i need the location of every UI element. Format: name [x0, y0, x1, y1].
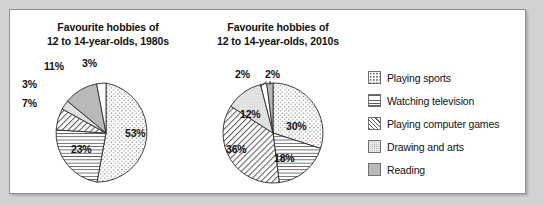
- legend-item-drawing-and-arts: Drawing and arts: [368, 135, 528, 158]
- pie-chart-2010s: Favourite hobbies of 12 to 14-year-olds,…: [188, 10, 368, 195]
- chart-1-label-drawing: 3%: [22, 78, 37, 90]
- chart-2-label-sports: 30%: [286, 120, 306, 132]
- chart-2-label-other: 2%: [235, 68, 250, 80]
- figure-panel: Favourite hobbies of 12 to 14-year-olds,…: [9, 9, 526, 194]
- chart-1-title: Favourite hobbies of 12 to 14-year-olds,…: [18, 21, 198, 48]
- legend-item-playing-sports: Playing sports: [368, 66, 528, 89]
- chart-2-pie-area: 30% 18% 36% 12% 2% 2%: [216, 80, 336, 186]
- page-root: Favourite hobbies of 12 to 14-year-olds,…: [0, 0, 543, 205]
- chart-2-title-line-1: Favourite hobbies of: [188, 21, 368, 35]
- legend-swatch-solid-gray-icon: [368, 163, 381, 176]
- chart-2-title-line-2: 12 to 14-year-olds, 2010s: [188, 35, 368, 49]
- legend-label-watching-television: Watching television: [387, 95, 474, 107]
- chart-2-label-computer-games: 36%: [226, 143, 246, 155]
- chart-1-title-line-2: 12 to 14-year-olds, 1980s: [18, 35, 198, 49]
- chart-2-title: Favourite hobbies of 12 to 14-year-olds,…: [188, 21, 368, 48]
- legend-item-watching-television: Watching television: [368, 89, 528, 112]
- chart-1-label-computer-games: 7%: [22, 97, 37, 109]
- legend-swatch-diagonal-hatch-icon: [368, 117, 381, 130]
- chart-2-label-reading: 2%: [265, 68, 280, 80]
- chart-2-label-television: 18%: [274, 152, 294, 164]
- legend-label-reading: Reading: [387, 164, 425, 176]
- legend-item-reading: Reading: [368, 158, 528, 181]
- legend-item-playing-computer-games: Playing computer games: [368, 112, 528, 135]
- chart-2-label-drawing: 12%: [240, 108, 260, 120]
- chart-1-label-television: 23%: [71, 143, 91, 155]
- legend-swatch-horizontal-lines-icon: [368, 94, 381, 107]
- chart-1-label-reading: 11%: [44, 60, 64, 72]
- pie-chart-1980s: Favourite hobbies of 12 to 14-year-olds,…: [18, 10, 198, 195]
- legend-label-drawing-and-arts: Drawing and arts: [387, 141, 464, 153]
- chart-1-label-other: 3%: [82, 57, 97, 69]
- chart-legend: Playing sports Watching television Playi…: [368, 66, 528, 181]
- legend-swatch-stipple-icon: [368, 140, 381, 153]
- chart-2-pie-svg: [216, 80, 336, 186]
- chart-1-label-sports: 53%: [125, 127, 145, 139]
- legend-label-playing-computer-games: Playing computer games: [387, 118, 499, 130]
- chart-1-pie-area: 53% 23% 7% 3% 11% 3%: [49, 80, 169, 186]
- legend-label-playing-sports: Playing sports: [387, 72, 451, 84]
- chart-1-title-line-1: Favourite hobbies of: [18, 21, 198, 35]
- chart-1-pie-svg: [49, 80, 169, 186]
- legend-swatch-dots-icon: [368, 71, 381, 84]
